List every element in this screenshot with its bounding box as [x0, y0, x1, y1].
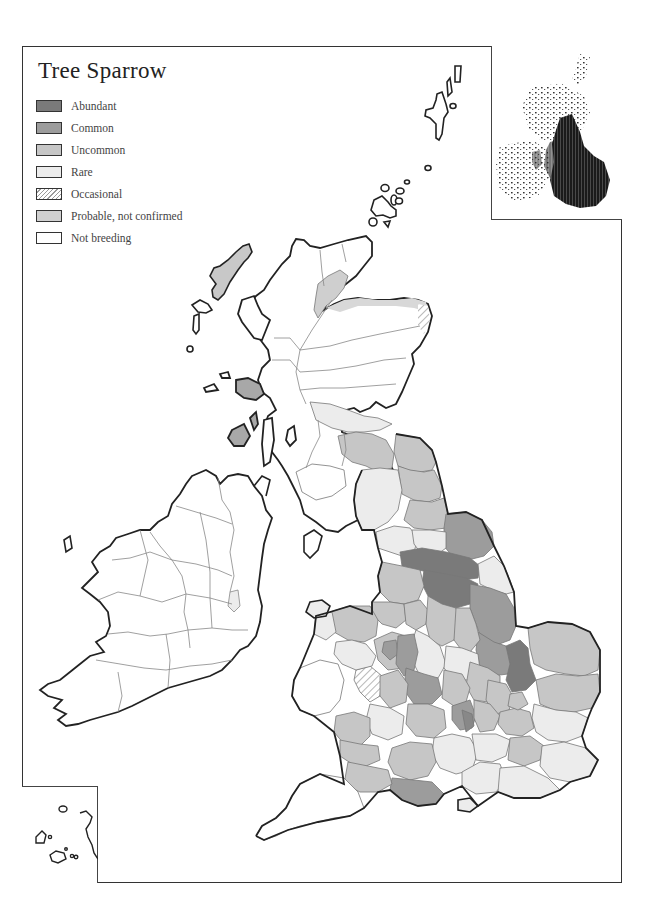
- legend: Abundant Common Uncommon Rare Occasional…: [36, 95, 182, 249]
- legend-item-rare: Rare: [36, 161, 182, 183]
- legend-swatch-abundant: [36, 100, 62, 112]
- legend-item-common: Common: [36, 117, 182, 139]
- legend-label: Rare: [71, 166, 93, 178]
- legend-item-probable: Probable, not confirmed: [36, 205, 182, 227]
- grid-distribution-map: [492, 46, 623, 220]
- legend-label: Abundant: [71, 100, 116, 112]
- outer-hebrides: [187, 244, 252, 352]
- map-title: Tree Sparrow: [38, 58, 167, 84]
- legend-label: Occasional: [71, 188, 122, 200]
- legend-label: Common: [71, 122, 114, 134]
- distribution-inset-map: [491, 46, 622, 220]
- legend-swatch-common: [36, 122, 62, 134]
- legend-item-uncommon: Uncommon: [36, 139, 182, 161]
- legend-swatch-occasional: [36, 188, 62, 200]
- legend-swatch-uncommon: [36, 144, 62, 156]
- ireland: [40, 470, 272, 726]
- legend-item-abundant: Abundant: [36, 95, 182, 117]
- legend-swatch-not-breeding: [36, 232, 62, 244]
- legend-label: Probable, not confirmed: [71, 210, 182, 222]
- legend-label: Uncommon: [71, 144, 125, 156]
- legend-swatch-probable: [36, 210, 62, 222]
- legend-item-not-breeding: Not breeding: [36, 227, 182, 249]
- scilly-isles-inset: [22, 786, 98, 883]
- orkney-islands: [369, 180, 410, 227]
- legend-item-occasional: Occasional: [36, 183, 182, 205]
- shetland-islands: [425, 66, 461, 171]
- legend-label: Not breeding: [71, 232, 131, 244]
- scilly-isles-map: [22, 787, 98, 884]
- legend-swatch-rare: [36, 166, 62, 178]
